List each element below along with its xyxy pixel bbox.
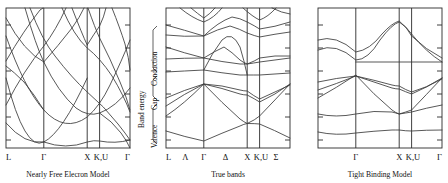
- conduction-bands: [166, 8, 290, 75]
- tb-bands: [318, 21, 442, 134]
- band-structure-figure: L Γ X K,U Γ Nearly Free Elecron Model: [0, 0, 448, 183]
- true-x-tick-labels: L Λ Γ Δ X K,U Σ: [166, 152, 279, 162]
- xtick-X: X: [396, 152, 402, 162]
- panel-true-bands: L Λ Γ Δ X K,U Σ True bands: [160, 0, 300, 183]
- xtick-gamma: Γ: [353, 152, 358, 162]
- region-label-conduction: Conduction: [150, 52, 159, 87]
- valence-bands: [166, 84, 290, 141]
- panel-tight-binding: Γ X K,U Γ Tight Binding Model: [312, 0, 448, 183]
- caption-true-bands: True bands: [211, 170, 245, 179]
- nfe-bands: [6, 8, 130, 148]
- axis-label-band-energy: Band energy: [137, 91, 146, 128]
- region-brackets: [145, 0, 169, 183]
- xtick-KU: K,U: [94, 152, 108, 162]
- xtick-X: X: [244, 152, 250, 162]
- nfe-plot: L Γ X K,U Γ Nearly Free Elecron Model: [0, 0, 140, 183]
- xtick-gamma: Γ: [201, 152, 206, 162]
- true-bands-plot: L Λ Γ Δ X K,U Σ True bands: [160, 0, 300, 183]
- panel-nearly-free-electron: L Γ X K,U Γ Nearly Free Elecron Model: [0, 0, 140, 183]
- xtick-KU: K,U: [406, 152, 420, 162]
- xtick-gamma2: Γ: [437, 152, 442, 162]
- xtick-KU: K,U: [254, 152, 268, 162]
- xtick-gamma2: Γ: [125, 152, 130, 162]
- xtick-gamma: Γ: [41, 152, 46, 162]
- xtick-sigma: Σ: [274, 152, 279, 162]
- nfe-x-tick-labels: L Γ X K,U Γ: [6, 152, 130, 162]
- plot-frame: [166, 8, 290, 148]
- xtick-lambda: Λ: [182, 152, 189, 162]
- xtick-L: L: [6, 152, 11, 162]
- xtick-delta: Δ: [223, 152, 229, 162]
- plot-frame: [318, 8, 442, 148]
- y-ticks-left: [318, 25, 323, 140]
- caption-nfe: Nearly Free Elecron Model: [26, 170, 109, 179]
- plot-frame: [6, 8, 130, 148]
- region-label-gap: Gap: [150, 98, 159, 110]
- caption-tight-binding: Tight Binding Model: [348, 170, 412, 179]
- tight-binding-plot: Γ X K,U Γ Tight Binding Model: [312, 0, 448, 183]
- xtick-X: X: [84, 152, 90, 162]
- tb-x-tick-labels: Γ X K,U Γ: [353, 152, 442, 162]
- region-label-valence: Valence: [150, 125, 159, 148]
- y-ticks-right: [285, 25, 290, 140]
